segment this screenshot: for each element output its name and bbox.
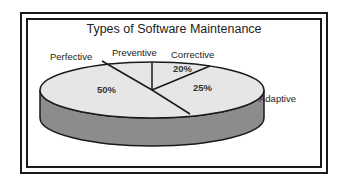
value-perfective: 50% (97, 84, 116, 95)
label-corrective: Corrective (171, 49, 214, 60)
label-adaptive: Adaptive (259, 93, 296, 104)
value-corrective: 20% (173, 63, 192, 74)
pie-chart (0, 0, 345, 182)
label-preventive: Preventive (112, 47, 157, 58)
label-perfective: Perfective (50, 51, 92, 62)
value-adaptive: 25% (193, 82, 212, 93)
